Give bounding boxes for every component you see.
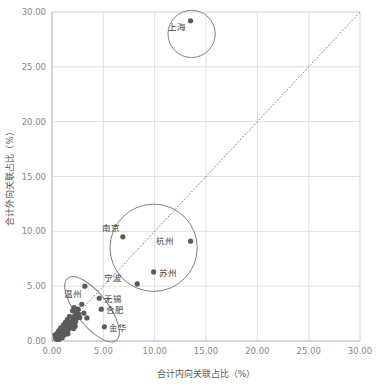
x-axis-title: 合计内向关联占比（%） (157, 368, 256, 379)
data-point-南京[interactable] (120, 234, 125, 239)
data-point-label-杭州: 杭州 (156, 236, 174, 246)
y-tick-label-4: 20.00 (22, 117, 46, 127)
y-tick-label-6: 30.00 (22, 7, 46, 17)
data-point[interactable] (67, 314, 72, 319)
x-tick-label-5: 25.00 (296, 346, 320, 356)
data-point[interactable] (63, 326, 68, 331)
x-tick-label-1: 5.00 (94, 346, 113, 356)
data-point[interactable] (73, 319, 78, 324)
data-point[interactable] (77, 315, 82, 320)
y-axis-title: 合计外向关联占比（%） (4, 127, 15, 226)
x-tick-label-2: 10.00 (142, 346, 166, 356)
data-point-label-合肥: 合肥 (106, 305, 124, 315)
data-point-label-宁波: 宁波 (104, 273, 122, 283)
data-point-苏州[interactable] (151, 269, 156, 274)
data-point[interactable] (84, 315, 89, 320)
y-tick-label-5: 25.00 (22, 62, 46, 72)
y-tick-label-0: 0.00 (27, 336, 46, 346)
data-point-合肥[interactable] (99, 307, 104, 312)
data-point[interactable] (76, 307, 81, 312)
data-point-label-金华: 金华 (109, 323, 127, 333)
data-point-无锡[interactable] (97, 296, 102, 301)
x-tick-label-0: 0.00 (43, 346, 62, 356)
x-tick-label-4: 20.00 (245, 346, 269, 356)
y-tick-label-1: 5.00 (27, 281, 46, 291)
data-point[interactable] (56, 336, 61, 341)
data-point-label-温州: 温州 (64, 289, 82, 299)
data-point-金华[interactable] (102, 324, 107, 329)
data-point[interactable] (81, 310, 86, 315)
y-tick-label-3: 15.00 (22, 172, 46, 182)
data-point[interactable] (79, 302, 84, 307)
data-point-宁波[interactable] (135, 281, 140, 286)
chart-canvas: 上海南京杭州苏州宁波温州无锡合肥金华0.005.0010.0015.0020.0… (0, 0, 383, 388)
data-point-杭州[interactable] (188, 239, 193, 244)
scatter-chart: 上海南京杭州苏州宁波温州无锡合肥金华0.005.0010.0015.0020.0… (0, 0, 383, 388)
x-tick-label-3: 15.00 (194, 346, 218, 356)
x-tick-label-6: 30.00 (348, 346, 372, 356)
data-point-上海[interactable] (188, 18, 193, 23)
data-point[interactable] (71, 326, 76, 331)
data-point-label-苏州: 苏州 (159, 268, 177, 278)
data-point-label-上海: 上海 (168, 22, 186, 32)
data-point[interactable] (65, 331, 70, 336)
data-point-label-南京: 南京 (102, 223, 120, 233)
data-point-温州[interactable] (82, 284, 87, 289)
y-tick-label-2: 10.00 (22, 226, 46, 236)
data-point-label-无锡: 无锡 (104, 294, 122, 304)
